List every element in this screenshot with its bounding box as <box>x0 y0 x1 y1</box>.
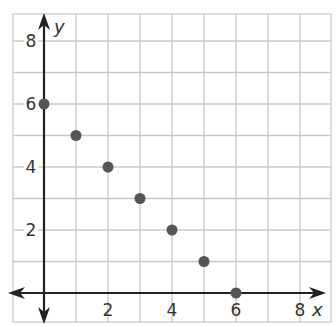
x-tick-label: 6 <box>231 300 242 320</box>
y-tick-label: 8 <box>26 31 37 51</box>
data-point <box>199 256 210 267</box>
grid-lines <box>13 14 331 322</box>
x-tick-label: 2 <box>103 300 114 320</box>
data-point <box>103 162 114 173</box>
x-axis-label: x <box>311 299 323 320</box>
x-tick-label: 4 <box>167 300 178 320</box>
data-point <box>39 99 50 110</box>
x-tick-label: 8 <box>295 300 306 320</box>
tick-labels: 24682468 <box>24 31 305 320</box>
data-point <box>71 130 82 141</box>
y-tick-label: 2 <box>26 220 37 240</box>
axes <box>8 13 326 324</box>
data-point <box>167 225 178 236</box>
y-tick-label: 4 <box>26 157 37 177</box>
y-axis-label: y <box>53 16 65 37</box>
scatter-plot: 24682468 x y <box>0 0 336 327</box>
data-point <box>231 288 242 299</box>
y-tick-label: 6 <box>26 94 37 114</box>
data-point <box>135 193 146 204</box>
